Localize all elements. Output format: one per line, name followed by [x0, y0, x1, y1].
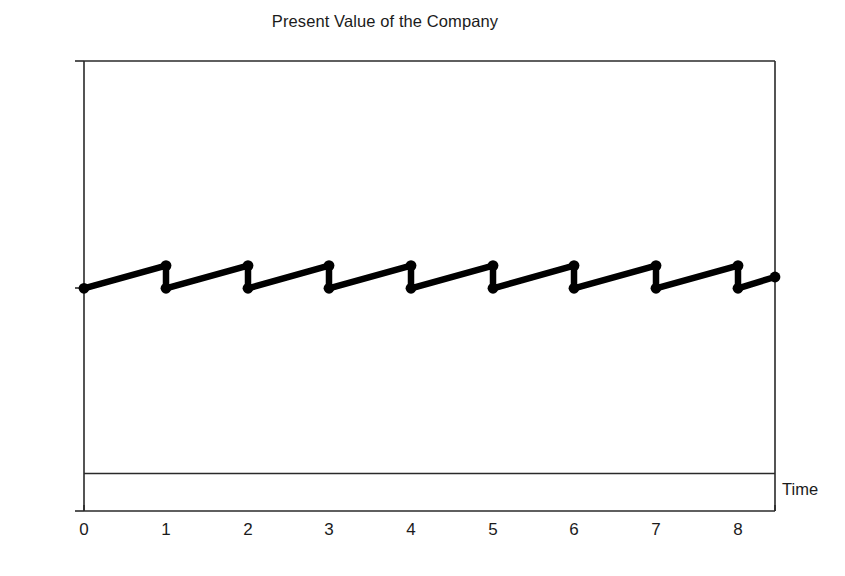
- data-point: [406, 260, 417, 271]
- data-point: [324, 283, 335, 294]
- x-axis-ticks: [84, 505, 775, 511]
- series-line-present-value: [84, 266, 775, 289]
- data-point: [406, 283, 417, 294]
- data-point: [651, 283, 662, 294]
- series-present-value: [79, 260, 781, 293]
- series-markers: [79, 260, 781, 293]
- data-point: [569, 260, 580, 271]
- plot-canvas: [0, 0, 845, 576]
- data-point: [324, 260, 335, 271]
- data-point: [651, 260, 662, 271]
- data-point: [243, 260, 254, 271]
- data-point: [161, 283, 172, 294]
- data-point: [488, 283, 499, 294]
- data-point: [569, 283, 580, 294]
- data-point: [733, 283, 744, 294]
- data-point: [770, 272, 781, 283]
- chart-figure: Present Value of the Company 11,000 5,00…: [0, 0, 845, 576]
- data-point: [243, 283, 254, 294]
- data-point: [733, 260, 744, 271]
- data-point: [488, 260, 499, 271]
- data-point: [161, 260, 172, 271]
- data-point: [79, 283, 90, 294]
